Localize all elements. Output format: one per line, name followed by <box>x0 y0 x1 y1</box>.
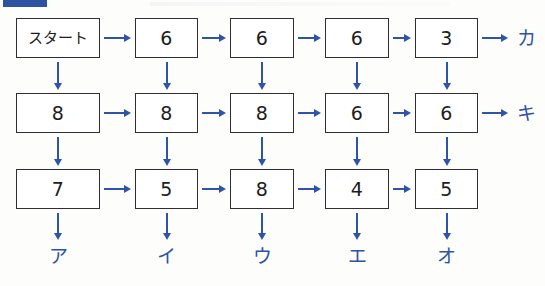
arrow-head <box>314 185 321 193</box>
arrow-shaft <box>298 112 315 114</box>
arrow-shaft <box>57 62 59 84</box>
value-box-r1-c4[interactable]: 6 <box>415 93 478 133</box>
arrow-shaft <box>202 188 220 190</box>
arrow-down-bottom-c0 <box>52 213 64 240</box>
arrow-shaft <box>166 213 168 234</box>
arrow-right-end-r1 <box>482 107 508 119</box>
arrow-shaft <box>446 213 448 234</box>
arrow-head <box>124 34 131 42</box>
bottom-label-2: ウ <box>248 244 276 268</box>
arrow-shaft <box>393 37 405 39</box>
value-box-r2-c2[interactable]: 8 <box>230 169 294 209</box>
flow-grid: スタート6663カ88866キ75845アイウエオ <box>0 0 545 286</box>
value-box-r1-c0[interactable]: 8 <box>16 93 100 133</box>
arrow-shaft <box>482 37 502 39</box>
arrow-down-r1-c3 <box>351 137 363 166</box>
arrow-head <box>124 109 131 117</box>
cell-value: 8 <box>256 180 269 199</box>
value-box-r2-c4[interactable]: 5 <box>415 169 478 209</box>
arrow-head <box>219 34 226 42</box>
arrow-shaft <box>202 112 220 114</box>
arrow-head <box>443 233 451 240</box>
arrow-head <box>163 83 171 90</box>
arrow-right-r0-c3 <box>393 32 411 44</box>
arrow-right-r1-c0 <box>104 107 131 119</box>
arrow-right-r2-c3 <box>393 183 411 195</box>
arrow-shaft <box>298 37 315 39</box>
arrow-head <box>314 109 321 117</box>
value-box-r1-c1[interactable]: 8 <box>135 93 198 133</box>
bottom-label-0: ア <box>44 244 72 268</box>
arrow-head <box>501 109 508 117</box>
arrow-head <box>314 34 321 42</box>
arrow-right-r2-c0 <box>104 183 131 195</box>
arrow-right-end-r0 <box>482 32 508 44</box>
value-box-r1-c3[interactable]: 6 <box>325 93 389 133</box>
arrow-head <box>258 83 266 90</box>
value-box-r0-c3[interactable]: 6 <box>325 18 389 58</box>
arrow-shaft <box>356 62 358 84</box>
arrow-head <box>163 159 171 166</box>
arrow-shaft <box>166 62 168 84</box>
arrow-shaft <box>393 188 405 190</box>
arrow-shaft <box>261 137 263 160</box>
cell-value: 8 <box>52 104 65 123</box>
arrow-down-r0-c2 <box>256 62 268 90</box>
arrow-shaft <box>57 213 59 234</box>
cell-value: 8 <box>160 104 173 123</box>
arrow-shaft <box>298 188 315 190</box>
arrow-down-r1-c0 <box>52 137 64 166</box>
cell-value: 6 <box>440 104 453 123</box>
arrow-down-r1-c1 <box>161 137 173 166</box>
arrow-right-r1-c1 <box>202 107 226 119</box>
arrow-shaft <box>446 137 448 160</box>
value-box-r2-c1[interactable]: 5 <box>135 169 198 209</box>
arrow-head <box>501 34 508 42</box>
arrow-shaft <box>482 112 502 114</box>
arrow-head <box>404 185 411 193</box>
cell-value: 6 <box>351 104 364 123</box>
bottom-label-1: イ <box>153 244 181 268</box>
value-box-r2-c0[interactable]: 7 <box>16 169 100 209</box>
arrow-down-bottom-c2 <box>256 213 268 240</box>
arrow-shaft <box>393 112 405 114</box>
cell-value: 5 <box>160 180 173 199</box>
value-box-r0-c4[interactable]: 3 <box>415 18 478 58</box>
arrow-head <box>54 83 62 90</box>
cell-value: 3 <box>440 29 453 48</box>
cell-value: 6 <box>351 29 364 48</box>
arrow-down-bottom-c1 <box>161 213 173 240</box>
arrow-head <box>404 109 411 117</box>
arrow-down-bottom-c4 <box>441 213 453 240</box>
arrow-right-r1-c3 <box>393 107 411 119</box>
arrow-head <box>163 233 171 240</box>
arrow-shaft <box>166 137 168 160</box>
arrow-right-r1-c2 <box>298 107 321 119</box>
cell-value: 5 <box>440 180 453 199</box>
arrow-right-r0-c1 <box>202 32 226 44</box>
cell-value: 4 <box>351 180 364 199</box>
arrow-down-r0-c4 <box>441 62 453 90</box>
arrow-head <box>353 159 361 166</box>
value-box-r2-c3[interactable]: 4 <box>325 169 389 209</box>
value-box-r0-c1[interactable]: 6 <box>135 18 198 58</box>
arrow-shaft <box>356 213 358 234</box>
arrow-shaft <box>104 37 125 39</box>
arrow-shaft <box>446 62 448 84</box>
cell-value: スタート <box>28 31 88 46</box>
arrow-head <box>443 159 451 166</box>
cell-value: 7 <box>52 180 65 199</box>
arrow-down-bottom-c3 <box>351 213 363 240</box>
start-box[interactable]: スタート <box>16 18 100 58</box>
row-end-label-r0: カ <box>512 26 540 50</box>
value-box-r1-c2[interactable]: 8 <box>230 93 294 133</box>
bottom-label-4: オ <box>433 244 461 268</box>
cell-value: 6 <box>256 29 269 48</box>
arrow-head <box>219 109 226 117</box>
value-box-r0-c2[interactable]: 6 <box>230 18 294 58</box>
arrow-down-r1-c4 <box>441 137 453 166</box>
arrow-shaft <box>104 188 125 190</box>
diagram-page: スタート6663カ88866キ75845アイウエオ <box>0 0 545 286</box>
arrow-down-r1-c2 <box>256 137 268 166</box>
arrow-head <box>353 233 361 240</box>
